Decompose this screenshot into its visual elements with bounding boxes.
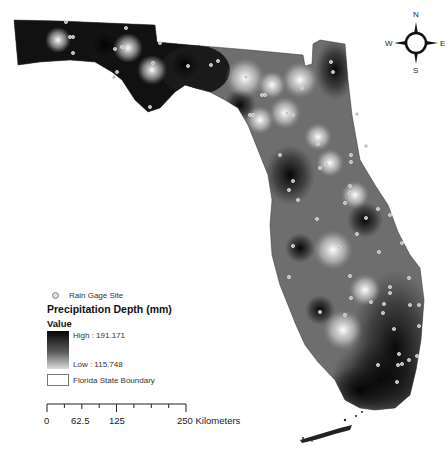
north-arrow-compass: N W E S [388, 8, 444, 74]
scale-label-0: 0 [44, 415, 49, 426]
compass-east-label: E [440, 39, 445, 48]
map-legend: Rain Gage Site Precipitation Depth (mm) … [47, 291, 207, 386]
compass-west-label: W [385, 39, 393, 48]
florida-keys [300, 411, 363, 443]
scale-label-62-5: 62.5 [71, 415, 90, 426]
legend-color-ramp: High : 191.171 Low : 115.748 [47, 331, 207, 369]
legend-value-label: Value [47, 318, 207, 329]
legend-low-label: Low : 115.748 [73, 360, 125, 369]
florida-precipitation-map [0, 0, 448, 457]
precipitation-surface [0, 0, 448, 457]
legend-gage-row: Rain Gage Site [47, 291, 207, 300]
color-ramp-bar [47, 331, 69, 369]
boundary-swatch-icon [47, 374, 69, 386]
rain-gage-icon [52, 292, 59, 299]
scale-bar-labels: 0 62.5 125 250 Kilometers [44, 415, 294, 427]
scale-label-250-km: 250 Kilometers [177, 415, 240, 426]
legend-boundary-label: Florida State Boundary [73, 376, 155, 385]
scale-label-125: 125 [109, 415, 125, 426]
legend-boundary-row: Florida State Boundary [47, 374, 207, 386]
legend-title: Precipitation Depth (mm) [47, 303, 207, 315]
compass-north-label: N [413, 10, 419, 19]
legend-high-label: High : 191.171 [73, 331, 125, 340]
compass-south-label: S [413, 66, 418, 75]
legend-gage-label: Rain Gage Site [69, 291, 123, 300]
scale-bar [46, 403, 188, 413]
